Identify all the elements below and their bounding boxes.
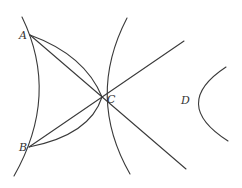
- point-label-c: C: [107, 94, 115, 105]
- point-label-d: D: [181, 95, 190, 106]
- geometry-diagram: [0, 0, 242, 188]
- point-label-a: A: [19, 30, 27, 41]
- right-hyperbola-branch: [198, 67, 228, 141]
- point-label-b: B: [19, 142, 27, 153]
